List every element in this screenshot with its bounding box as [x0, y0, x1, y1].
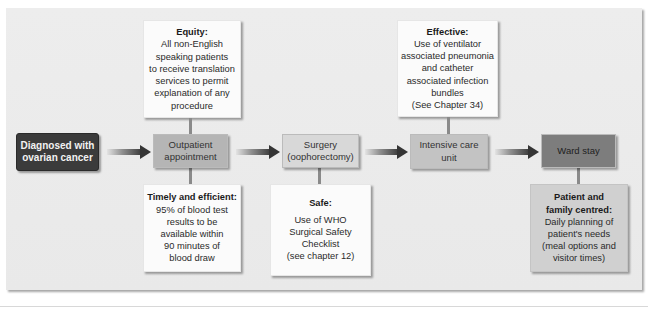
arrow-right-icon — [107, 146, 151, 158]
note-line: Use of WHO — [294, 214, 346, 226]
note-title: family centred: — [546, 204, 612, 216]
connector-timely — [189, 167, 192, 184]
stage-outpatient: Outpatient appointment — [153, 134, 228, 168]
note-patient-family-centred: Patient and family centred: Daily planni… — [530, 184, 628, 272]
note-line: services to permit — [156, 75, 229, 87]
stage-label: (oophorectomy) — [287, 151, 354, 164]
note-line: (See Chapter 34) — [412, 99, 483, 111]
note-line: and catheter — [422, 62, 474, 74]
stage-diagnosed: Diagnosed with ovarian cancer — [16, 133, 99, 171]
stage-icu: Intensive care unit — [410, 134, 488, 169]
note-line: associated infection — [407, 75, 489, 87]
note-line: Checklist — [302, 238, 340, 250]
note-equity: Equity: All non-English speaking patient… — [143, 20, 241, 118]
note-title: Safe: — [309, 197, 332, 209]
note-line: speaking patients — [156, 51, 228, 63]
note-line: available within — [160, 228, 223, 240]
note-line: 90 minutes of — [164, 240, 220, 252]
note-line: (meal options and — [542, 240, 616, 252]
arrow-head — [528, 145, 539, 159]
note-line: explanation of any — [154, 87, 229, 99]
note-line: visitor times) — [553, 252, 605, 264]
note-timely: Timely and efficient: 95% of blood test … — [143, 184, 241, 272]
cropped-caption — [0, 0, 648, 4]
stage-label: ovarian cancer — [22, 152, 93, 165]
connector-effective — [447, 117, 450, 134]
arrow-shaft — [236, 149, 270, 155]
note-line: 95% of blood test — [156, 204, 228, 216]
note-line: Daily planning of — [545, 216, 614, 228]
arrow-head — [140, 145, 151, 159]
arrow-right-icon — [236, 146, 280, 158]
note-safe: Safe: Use of WHO Surgical Safety Checkli… — [270, 184, 371, 276]
note-title: Patient and — [554, 191, 604, 203]
arrow-shaft — [495, 149, 529, 155]
arrow-right-icon — [365, 146, 408, 158]
connector-equity — [189, 118, 192, 134]
arrow-head — [397, 145, 408, 159]
stage-label: Outpatient — [169, 139, 213, 152]
note-title: Equity: — [176, 26, 208, 38]
note-line: blood draw — [169, 252, 214, 264]
stage-surgery: Surgery (oophorectomy) — [282, 134, 359, 168]
divider — [0, 306, 648, 307]
note-title: Effective: — [427, 26, 469, 38]
stage-ward: Ward stay — [541, 134, 616, 168]
stage-label: appointment — [164, 151, 216, 164]
note-line: associated pneumonia — [401, 50, 494, 62]
stage-label: Intensive care — [419, 139, 478, 152]
note-line: to receive translation — [149, 63, 235, 75]
stage-label: Ward stay — [557, 145, 599, 158]
note-line: All non-English — [161, 38, 223, 50]
arrow-shaft — [365, 149, 398, 155]
arrow-right-icon — [495, 146, 539, 158]
connector-safe — [318, 167, 321, 184]
stage-label: Surgery — [304, 139, 337, 152]
note-line: (see chapter 12) — [287, 250, 355, 262]
connector-patient — [577, 167, 580, 184]
stage-label: unit — [441, 152, 456, 165]
stage-label: Diagnosed with — [21, 140, 95, 153]
note-line: bundles — [431, 87, 464, 99]
note-line: procedure — [171, 100, 213, 112]
note-line: patient's needs — [548, 228, 610, 240]
note-line: Surgical Safety — [289, 226, 352, 238]
arrow-shaft — [107, 149, 141, 155]
note-title: Timely and efficient: — [147, 191, 237, 203]
note-line: results to be — [167, 216, 218, 228]
arrow-head — [269, 145, 280, 159]
note-effective: Effective: Use of ventilator associated … — [397, 20, 498, 117]
note-line: Use of ventilator — [414, 38, 481, 50]
